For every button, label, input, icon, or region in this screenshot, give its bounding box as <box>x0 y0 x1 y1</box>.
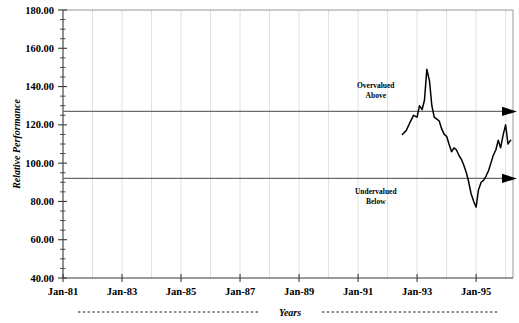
x-axis-caption: Years <box>279 307 301 318</box>
y-axis-title: Relative Performance <box>11 99 22 190</box>
chart-background <box>0 0 519 323</box>
undervalued-note-line1: Undervalued <box>355 187 398 196</box>
overvalued-note-line2: Above <box>366 91 387 100</box>
x-tick-label-Jan-91: Jan-91 <box>343 286 373 297</box>
chart-container: 40.0060.0080.00100.00120.00140.00160.001… <box>0 0 519 323</box>
y-tick-label-100: 100.00 <box>25 158 54 169</box>
x-tick-label-Jan-85: Jan-85 <box>166 286 196 297</box>
y-tick-label-80: 80.00 <box>30 196 54 207</box>
y-tick-label-180: 180.00 <box>25 5 54 16</box>
x-tick-label-Jan-89: Jan-89 <box>284 286 314 297</box>
y-tick-label-120: 120.00 <box>25 119 54 130</box>
x-tick-label-Jan-81: Jan-81 <box>48 286 78 297</box>
x-tick-label-Jan-93: Jan-93 <box>402 286 432 297</box>
y-tick-label-60: 60.00 <box>30 234 54 245</box>
y-tick-label-40: 40.00 <box>30 273 54 284</box>
overvalued-note-line1: Overvalued <box>357 81 395 90</box>
relative-performance-line-chart: 40.0060.0080.00100.00120.00140.00160.001… <box>0 0 519 323</box>
x-tick-label-Jan-83: Jan-83 <box>107 286 137 297</box>
x-tick-label-Jan-95: Jan-95 <box>461 286 491 297</box>
x-tick-label-Jan-87: Jan-87 <box>225 286 255 297</box>
undervalued-note-line2: Below <box>366 197 386 206</box>
y-tick-label-160: 160.00 <box>25 43 54 54</box>
y-tick-label-140: 140.00 <box>25 81 54 92</box>
